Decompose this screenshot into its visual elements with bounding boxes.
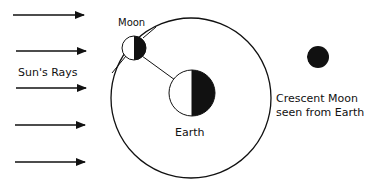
crescent-moon bbox=[305, 46, 329, 68]
moon bbox=[112, 27, 156, 73]
sun-rays bbox=[13, 15, 86, 162]
crescent-label-line1: Crescent Moon bbox=[276, 92, 358, 105]
earth-label: Earth bbox=[175, 126, 205, 139]
earth bbox=[169, 70, 215, 116]
sun-rays-label: Sun's Rays bbox=[18, 66, 78, 79]
moon-label: Moon bbox=[118, 16, 145, 29]
moon-phase-diagram bbox=[0, 0, 383, 182]
crescent-label-line2: seen from Earth bbox=[276, 106, 364, 119]
moon-earth-line bbox=[142, 56, 175, 80]
